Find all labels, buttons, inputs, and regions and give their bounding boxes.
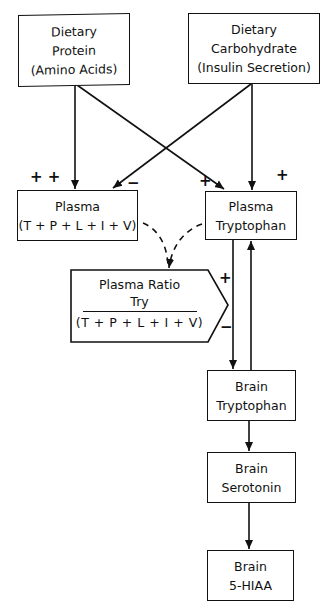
node-plasma-ratio-denominator: (T + P + L + I + V) — [76, 314, 203, 332]
node-brain-serotonin-line2: Serotonin — [221, 478, 281, 497]
fraction-bar — [83, 311, 197, 312]
node-brain-5hiaa-line1: Brain — [234, 557, 267, 576]
node-plasma-lnaa-line1: Plasma — [55, 197, 100, 216]
node-plasma-tryptophan-line2: Tryptophan — [216, 216, 286, 235]
node-brain-tryptophan: Brain Tryptophan — [207, 370, 296, 421]
sign-ratio-minus: − — [220, 320, 233, 335]
node-dietary-carbohydrate-line3: (Insulin Secretion) — [197, 58, 311, 77]
node-dietary-protein: Dietary Protein (Amino Acids) — [18, 13, 130, 87]
node-brain-5hiaa: Brain 5-HIAA — [207, 550, 294, 601]
node-plasma-tryptophan-line1: Plasma — [228, 197, 273, 216]
node-plasma-ratio-numerator: Try — [130, 294, 148, 310]
node-brain-tryptophan-line1: Brain — [235, 377, 268, 396]
node-dietary-carbohydrate-line2: Carbohydrate — [211, 39, 297, 58]
dashed-arrow-tryptophan-to-ratio — [169, 224, 202, 268]
node-dietary-carbohydrate-line1: Dietary — [231, 20, 277, 39]
arrow-carb-to-plasma — [113, 84, 251, 188]
node-brain-serotonin-line1: Brain — [235, 459, 268, 478]
node-brain-tryptophan-line2: Tryptophan — [216, 396, 286, 415]
sign-protein-to-plasma: + + — [30, 170, 60, 185]
node-brain-5hiaa-line2: 5-HIAA — [229, 576, 272, 595]
sign-carb-to-tryptophan: + — [276, 168, 289, 183]
node-plasma-lnaa: Plasma (T + P + L + I + V) — [17, 190, 138, 241]
sign-ratio-plus: + — [219, 271, 232, 286]
node-dietary-protein-line2: Protein — [52, 40, 96, 60]
node-brain-serotonin: Brain Serotonin — [207, 452, 296, 503]
sign-protein-to-tryptophan: + — [199, 174, 212, 189]
node-dietary-protein-line1: Dietary — [51, 21, 97, 41]
node-plasma-tryptophan: Plasma Tryptophan — [205, 191, 297, 240]
node-plasma-lnaa-line2: (T + P + L + I + V) — [19, 216, 137, 235]
node-dietary-carbohydrate: Dietary Carbohydrate (Insulin Secretion) — [188, 13, 320, 84]
node-dietary-protein-line3: (Amino Acids) — [31, 59, 118, 80]
node-plasma-ratio: Plasma Ratio Try (T + P + L + I + V) — [71, 270, 208, 342]
sign-carb-to-plasma: − — [127, 176, 140, 191]
dashed-arrow-plasma-to-ratio — [143, 223, 168, 268]
node-plasma-ratio-title: Plasma Ratio — [99, 276, 180, 294]
